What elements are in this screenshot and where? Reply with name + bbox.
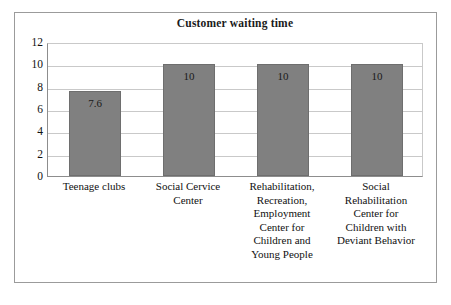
x-category-line: Social Cervice <box>142 180 234 194</box>
x-category-line: Teenage clubs <box>48 180 140 194</box>
y-tick-label: 6 <box>17 104 43 116</box>
x-category-label: Rehabilitation,Recreation,EmploymentCent… <box>236 180 328 261</box>
x-category-line: Young People <box>236 248 328 262</box>
y-tick-label: 12 <box>17 37 43 49</box>
x-category-label: Teenage clubs <box>48 180 140 194</box>
y-tick-label: 2 <box>17 149 43 161</box>
x-category-line: Rehabilitation <box>330 194 422 208</box>
bar-value-label: 10 <box>258 71 308 82</box>
y-tick-label: 0 <box>17 171 43 183</box>
x-category-line: Center for <box>236 221 328 235</box>
bar-value-label: 10 <box>164 71 214 82</box>
x-category-label: SocialRehabilitationCenter forChildren w… <box>330 180 422 248</box>
chart-title: Customer waiting time <box>47 17 423 29</box>
x-category-line: Employment <box>236 207 328 221</box>
x-category-label: Social CerviceCenter <box>142 180 234 207</box>
y-tick-label: 8 <box>17 82 43 94</box>
x-category-line: Children with <box>330 221 422 235</box>
x-axis: Teenage clubsSocial CerviceCenterRehabil… <box>47 180 423 280</box>
bar-value-label: 10 <box>352 71 402 82</box>
x-category-line: Deviant Behavior <box>330 234 422 248</box>
y-tick-label: 4 <box>17 127 43 139</box>
bar: 10 <box>351 64 403 176</box>
bar-value-label: 7.6 <box>70 98 120 109</box>
x-category-line: Rehabilitation, <box>236 180 328 194</box>
y-axis: 121086420 <box>15 43 43 177</box>
y-tick-label: 10 <box>17 60 43 72</box>
chart-frame: Customer waiting time 121086420 7.610101… <box>14 12 437 283</box>
x-category-line: Social <box>330 180 422 194</box>
x-category-line: Center for <box>330 207 422 221</box>
x-category-line: Center <box>142 194 234 208</box>
x-category-line: Children and <box>236 234 328 248</box>
x-category-line: Recreation, <box>236 194 328 208</box>
bar: 10 <box>163 64 215 176</box>
plot-area: 7.6101010 <box>47 43 423 177</box>
bar: 10 <box>257 64 309 176</box>
bar: 7.6 <box>69 91 121 176</box>
